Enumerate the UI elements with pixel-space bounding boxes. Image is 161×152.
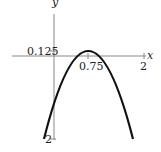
x-axis-label: x — [147, 49, 154, 62]
y-tick-label-neg2: 2 — [45, 133, 52, 146]
y-tick-label-0125: 0.125 — [27, 45, 59, 58]
parabola-chart: y x 0.125 0.75 2 2 — [0, 0, 161, 152]
x-tick-label-075: 0.75 — [79, 60, 104, 73]
x-tick-label-2: 2 — [140, 60, 147, 73]
y-axis-label: y — [51, 0, 59, 9]
